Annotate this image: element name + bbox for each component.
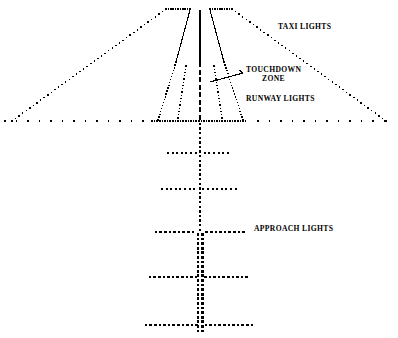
light-dot — [83, 68, 85, 70]
light-dot — [193, 120, 195, 122]
light-dot — [271, 37, 273, 39]
centerline-dash — [199, 107, 201, 112]
light-dot — [214, 120, 216, 122]
light-dot — [33, 105, 35, 107]
light-dot — [154, 120, 156, 122]
light-dot — [197, 247, 200, 250]
light-dot — [211, 120, 213, 122]
light-dot — [285, 47, 287, 49]
light-dot — [168, 324, 171, 327]
light-dot — [278, 42, 280, 44]
light-dot — [177, 8, 179, 10]
light-dot — [175, 61, 176, 62]
light-dot — [199, 160, 201, 162]
light-dot — [235, 11, 237, 13]
light-dot — [367, 107, 369, 109]
label-touchdown-zone-line1: TOUCHDOWN — [246, 65, 301, 74]
light-dot — [201, 261, 204, 264]
light-dot — [233, 90, 234, 91]
light-dot — [129, 34, 131, 36]
light-dot — [201, 293, 204, 296]
light-dot — [357, 99, 359, 101]
light-dot — [199, 150, 201, 152]
light-dot — [360, 102, 362, 104]
light-dot — [199, 127, 201, 129]
light-dot — [174, 64, 175, 65]
light-dot — [187, 8, 189, 10]
light-dot — [168, 8, 170, 10]
light-dot — [230, 82, 231, 83]
solid-stroke — [239, 70, 243, 73]
light-dot — [170, 188, 172, 190]
light-dot — [165, 8, 167, 10]
light-dot — [199, 210, 201, 212]
light-dot — [226, 70, 227, 71]
light-dot — [289, 50, 291, 52]
light-dot — [115, 45, 117, 47]
light-dot — [180, 98, 181, 99]
light-dot — [158, 276, 161, 279]
light-dot — [296, 55, 298, 57]
light-dot — [227, 152, 229, 154]
light-dot — [62, 120, 64, 122]
light-dot — [216, 85, 217, 86]
light-dot — [181, 276, 184, 279]
light-dot — [201, 256, 204, 259]
light-dot — [199, 206, 201, 208]
light-dot — [172, 324, 175, 327]
light-dot — [197, 316, 200, 319]
light-dot — [201, 288, 204, 291]
light-dot — [149, 324, 152, 327]
light-dot — [131, 120, 133, 122]
light-dot — [227, 120, 229, 122]
light-dot — [144, 24, 146, 26]
light-dot — [178, 231, 181, 234]
light-dot — [303, 60, 305, 62]
light-dot — [223, 324, 226, 327]
light-dot — [201, 274, 204, 277]
light-dot — [238, 13, 240, 15]
light-dot — [198, 120, 200, 122]
light-dot — [245, 276, 248, 279]
light-dot — [22, 112, 24, 114]
light-dot — [197, 233, 200, 236]
light-dot — [159, 120, 161, 122]
light-dot — [199, 201, 201, 203]
light-dot — [201, 284, 204, 287]
light-dot — [212, 8, 214, 10]
light-dot — [178, 114, 179, 115]
light-dot — [163, 324, 166, 327]
light-dot — [186, 276, 189, 279]
light-dot — [212, 188, 214, 190]
light-dot — [145, 324, 148, 327]
light-dot — [220, 111, 221, 112]
light-dot — [199, 146, 201, 148]
light-dot — [167, 87, 168, 88]
light-dot — [314, 68, 316, 70]
light-dot — [153, 276, 156, 279]
light-dot — [209, 276, 212, 279]
light-dot — [161, 108, 162, 109]
light-dot — [229, 8, 231, 10]
light-dot — [171, 76, 172, 77]
light-dot — [190, 152, 192, 154]
light-dot — [203, 120, 205, 122]
light-dot — [197, 307, 200, 310]
light-dot — [306, 63, 308, 64]
light-dot — [192, 231, 195, 234]
light-dot — [239, 108, 240, 109]
light-dot — [189, 188, 191, 190]
light-dot — [234, 93, 235, 94]
light-dot — [221, 8, 223, 10]
light-dot — [160, 111, 161, 112]
light-dot — [201, 251, 204, 254]
light-dot — [221, 114, 222, 115]
light-dot — [324, 76, 326, 78]
light-dot — [172, 120, 174, 122]
light-dot — [201, 311, 204, 314]
light-dot — [172, 276, 175, 279]
light-dot — [199, 173, 201, 175]
light-dot — [221, 188, 223, 190]
light-dot — [180, 8, 182, 10]
light-dot — [181, 152, 183, 154]
